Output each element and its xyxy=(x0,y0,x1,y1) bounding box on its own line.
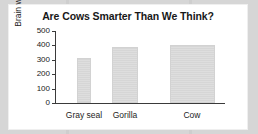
y-tick-200: 200 xyxy=(55,74,59,75)
y-tick-label: 400 xyxy=(37,40,50,49)
y-tick-label: 200 xyxy=(37,69,50,78)
x-label-gorilla: Gorilla xyxy=(102,110,148,120)
y-tick-label: 300 xyxy=(37,55,50,64)
x-axis-line xyxy=(55,103,225,104)
y-tick-mark xyxy=(52,89,56,90)
y-tick-100: 100 xyxy=(55,89,59,90)
y-tick-mark xyxy=(52,60,56,61)
y-tick-mark xyxy=(52,103,56,104)
y-axis-line xyxy=(55,31,56,103)
y-tick-mark xyxy=(52,31,56,32)
bar-cow xyxy=(170,45,215,103)
y-axis-label: Brain weight (g) xyxy=(13,0,23,33)
chart-title: Are Cows Smarter Than We Think? xyxy=(9,10,247,22)
plot-area: 5004003002001000 Gray sealGorillaCow xyxy=(55,26,227,108)
y-tick-0: 0 xyxy=(55,103,59,104)
chart-screenshot: Are Cows Smarter Than We Think? Brain we… xyxy=(0,0,258,134)
y-tick-mark xyxy=(52,45,56,46)
bar-gorilla xyxy=(112,47,138,103)
y-tick-300: 300 xyxy=(55,60,59,61)
bar-gray-seal xyxy=(77,58,91,103)
x-label-cow: Cow xyxy=(168,110,216,120)
y-tick-400: 400 xyxy=(55,45,59,46)
y-tick-mark xyxy=(52,74,56,75)
y-tick-label: 500 xyxy=(37,26,50,35)
y-tick-label: 0 xyxy=(46,98,50,107)
y-tick-label: 100 xyxy=(37,84,50,93)
y-tick-500: 500 xyxy=(55,31,59,32)
x-label-gray-seal: Gray seal xyxy=(60,110,108,120)
chart-panel: Are Cows Smarter Than We Think? Brain we… xyxy=(9,5,247,129)
